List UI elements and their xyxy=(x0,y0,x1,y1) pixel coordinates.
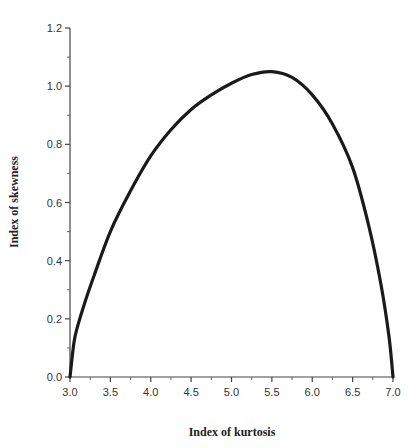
data-curve xyxy=(70,72,393,377)
y-axis: 0.00.20.40.60.81.01.2 xyxy=(47,22,70,383)
y-tick-label: 0.6 xyxy=(47,197,62,209)
y-tick-label: 0.0 xyxy=(47,371,62,383)
y-tick-label: 0.8 xyxy=(47,138,62,150)
x-axis: 3.03.54.04.55.05.56.06.57.0 xyxy=(62,377,400,398)
x-tick-label: 4.0 xyxy=(143,386,158,398)
y-tick-label: 1.0 xyxy=(47,80,62,92)
y-tick-label: 0.2 xyxy=(47,313,62,325)
x-tick-label: 5.0 xyxy=(224,386,239,398)
y-tick-label: 1.2 xyxy=(47,22,62,34)
x-tick-label: 4.5 xyxy=(183,386,198,398)
x-tick-label: 3.0 xyxy=(62,386,77,398)
y-axis-title: Index of skewness xyxy=(7,156,21,248)
x-tick-label: 3.5 xyxy=(103,386,118,398)
x-axis-title: Index of kurtosis xyxy=(189,425,276,439)
y-tick-label: 0.4 xyxy=(47,255,62,267)
x-tick-label: 6.5 xyxy=(345,386,360,398)
x-tick-label: 6.0 xyxy=(305,386,320,398)
x-tick-label: 7.0 xyxy=(385,386,400,398)
x-tick-label: 5.5 xyxy=(264,386,279,398)
chart: 0.00.20.40.60.81.01.2 3.03.54.04.55.05.5… xyxy=(0,0,418,448)
